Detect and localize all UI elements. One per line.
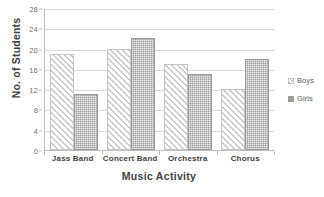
legend-label: Boys [297,76,314,85]
bar-girls[interactable] [74,94,98,150]
legend-item-girls[interactable]: Girls [288,94,314,103]
y-axis-tick-label: 24 [29,25,38,34]
bar-group [45,9,102,150]
y-axis-tick-label: 4 [34,126,38,135]
x-axis-tick-label: Concert Band [102,154,160,163]
y-axis-tick-mark [39,130,42,131]
x-axis-tick-label: Orchestra [159,154,217,163]
bar-girls[interactable] [131,38,155,150]
y-axis-tick-label: 8 [34,106,38,115]
legend-swatch-icon [288,78,294,84]
bar-chart: No. of Students 2824201612840 Jass BandC… [0,0,324,197]
y-axis-tick-label: 16 [29,65,38,74]
bar-boys[interactable] [107,49,131,150]
y-axis-tick-mark [39,69,42,70]
y-axis-tick-mark [39,49,42,50]
x-axis-title: Music Activity [44,170,274,182]
x-axis-tick-mark [274,151,275,155]
bar-boys[interactable] [50,54,74,150]
bars-layer [45,9,274,150]
legend-swatch-icon [288,96,294,102]
x-axis-tick-labels: Jass BandConcert BandOrchestraChorus [44,154,274,163]
plot-area [44,9,274,151]
y-axis-tick-mark [39,90,42,91]
bar-boys[interactable] [221,89,245,150]
y-axis-tick-label: 20 [29,45,38,54]
bar-boys[interactable] [164,64,188,150]
bar-girls[interactable] [245,59,269,150]
y-axis-tick-mark [39,29,42,30]
y-axis-tick-labels: 2824201612840 [20,9,42,151]
x-axis-tick-label: Chorus [217,154,275,163]
y-axis-tick-label: 12 [29,86,38,95]
y-axis-tick-mark [39,110,42,111]
y-axis-tick-label: 0 [34,147,38,156]
x-axis-tick-label: Jass Band [44,154,102,163]
bar-group [160,9,217,150]
legend-label: Girls [297,94,313,103]
chart-legend: BoysGirls [288,76,314,103]
y-axis-tick-mark [39,9,42,10]
y-axis-tick-mark [39,151,42,152]
legend-item-boys[interactable]: Boys [288,76,314,85]
bar-group [217,9,274,150]
bar-group [102,9,159,150]
y-axis-tick-label: 28 [29,5,38,14]
bar-girls[interactable] [188,74,212,150]
